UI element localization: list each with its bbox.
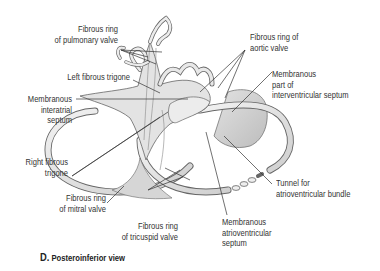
label-fibrous-ring-tricuspid: Fibrous ring of tricuspid valve [109,221,178,242]
caption-text: Posteroinferior view [51,253,125,263]
label-tunnel-av-bundle: Tunnel for atrioventricular bundle [276,178,350,199]
membranous-interventricular-septum [214,90,267,148]
label-pulmonary-ring: Fibrous ring of pulmonary valve [51,24,118,45]
label-membranous-interatrial-septum: Membranous interatrial septum [17,94,72,126]
figure-caption: D. Posteroinferior view [40,251,125,263]
label-fibrous-ring-aortic: Fibrous ring of aortic valve [250,32,298,53]
label-left-fibrous-trigone: Left fibrous trigone [42,72,130,83]
label-fibrous-ring-mitral: Fibrous ring of mitral valve [48,193,106,214]
label-membranous-av-septum: Membranous atrioventricular septum [222,217,272,249]
caption-letter: D. [40,251,49,263]
label-membranous-interventricular: Membranous part of interventricular sept… [272,69,349,101]
label-right-fibrous-trigone: Right fibrous trigone [17,157,68,178]
